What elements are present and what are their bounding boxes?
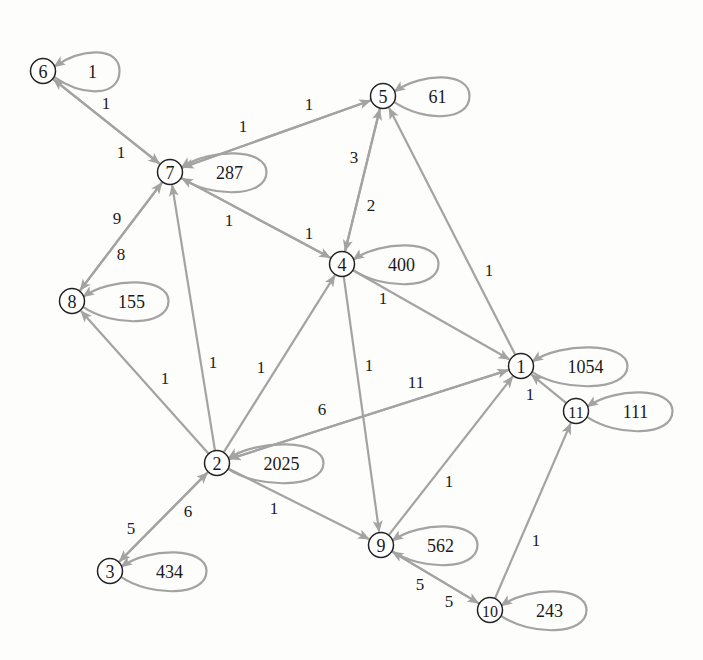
self-loop-label-5: 61 xyxy=(429,87,447,107)
edge-7-to-8 xyxy=(80,182,162,290)
edge-3-to-2 xyxy=(119,473,208,563)
edge-label-10-to-9: 5 xyxy=(416,575,425,594)
edge-label-10-to-11: 1 xyxy=(532,531,541,550)
edge-5-to-4 xyxy=(345,108,380,251)
edge-label-5-to-4: 2 xyxy=(367,196,376,215)
edge-label-4-to-7: 1 xyxy=(225,211,234,230)
edge-9-to-1 xyxy=(389,377,513,536)
edge-10-to-11 xyxy=(495,423,571,598)
edge-label-7-to-4: 1 xyxy=(305,224,314,243)
edge-label-11-to-1: 1 xyxy=(526,385,535,404)
edge-6-to-7 xyxy=(53,79,160,164)
self-loop-label-10: 243 xyxy=(536,601,563,621)
node-label-10: 10 xyxy=(482,603,498,620)
edge-label-1-to-2: 6 xyxy=(318,400,327,419)
nodes-layer: 1234567891011 xyxy=(31,59,589,623)
node-label-9: 9 xyxy=(377,536,386,556)
node-label-7: 7 xyxy=(166,163,175,183)
node-label-3: 3 xyxy=(106,562,115,582)
edge-label-4-to-1: 1 xyxy=(379,289,388,308)
node-7: 7 xyxy=(158,160,183,185)
edge-2-to-8 xyxy=(81,311,209,454)
self-loop-label-3: 434 xyxy=(156,562,183,582)
node-3: 3 xyxy=(98,559,123,584)
node-2: 2 xyxy=(205,451,230,476)
edge-label-3-to-2: 6 xyxy=(184,502,193,521)
edge-label-7-to-6: 1 xyxy=(102,94,111,113)
edge-labels-layer: 1111321198111111611156155111054202543440… xyxy=(88,62,648,621)
edge-9-to-10 xyxy=(392,551,479,603)
edge-label-7-to-5: 1 xyxy=(305,95,314,114)
node-label-1: 1 xyxy=(517,357,526,377)
node-label-4: 4 xyxy=(338,255,347,275)
edge-11-to-1 xyxy=(531,375,566,404)
edge-7-to-5 xyxy=(182,101,371,168)
node-6: 6 xyxy=(31,59,56,84)
node-label-2: 2 xyxy=(213,454,222,474)
self-loop-6 xyxy=(54,52,120,91)
self-loop-label-4: 400 xyxy=(388,255,415,275)
self-loop-label-2: 2025 xyxy=(264,454,300,474)
node-label-5: 5 xyxy=(379,87,388,107)
self-loop-label-11: 111 xyxy=(623,402,649,422)
node-10: 10 xyxy=(478,598,503,623)
edge-1-to-5 xyxy=(389,108,515,355)
node-5: 5 xyxy=(371,84,396,109)
self-loop-label-1: 1054 xyxy=(568,357,604,377)
edge-label-9-to-10: 5 xyxy=(445,592,454,611)
self-loops-layer xyxy=(54,52,673,630)
edge-label-2-to-9: 1 xyxy=(270,499,279,518)
edge-label-2-to-8: 1 xyxy=(161,369,170,388)
edge-2-to-7 xyxy=(172,185,215,450)
edge-4-to-9 xyxy=(344,276,379,531)
node-8: 8 xyxy=(60,289,85,314)
edge-label-2-to-4: 1 xyxy=(257,358,266,377)
edge-label-7-to-8: 8 xyxy=(117,245,126,264)
node-11: 11 xyxy=(564,399,589,424)
edge-label-2-to-7: 1 xyxy=(209,353,218,372)
edge-7-to-4 xyxy=(181,178,330,258)
edge-label-6-to-7: 1 xyxy=(117,143,126,162)
edge-4-to-1 xyxy=(353,270,509,359)
node-label-6: 6 xyxy=(39,62,48,82)
node-label-8: 8 xyxy=(68,292,77,312)
edge-label-4-to-9: 1 xyxy=(365,356,374,375)
edge-label-2-to-1: 11 xyxy=(408,373,424,392)
self-loop-label-8: 155 xyxy=(118,292,145,312)
self-loop-label-9: 562 xyxy=(427,536,454,556)
node-1: 1 xyxy=(509,354,534,379)
edge-label-1-to-5: 1 xyxy=(485,261,494,280)
edge-label-5-to-7: 1 xyxy=(239,117,248,136)
edge-label-4-to-5: 3 xyxy=(350,148,359,167)
self-loop-label-7: 287 xyxy=(216,163,243,183)
directed-graph: 1234567891011 11113211981111116111561551… xyxy=(0,0,703,660)
node-label-11: 11 xyxy=(568,404,583,421)
node-9: 9 xyxy=(369,533,394,558)
node-4: 4 xyxy=(330,252,355,277)
self-loop-label-6: 1 xyxy=(88,62,97,82)
edge-label-2-to-3: 5 xyxy=(127,519,136,538)
edge-label-8-to-7: 9 xyxy=(113,209,122,228)
edge-label-9-to-1: 1 xyxy=(445,472,454,491)
edge-2-to-4 xyxy=(224,275,335,452)
